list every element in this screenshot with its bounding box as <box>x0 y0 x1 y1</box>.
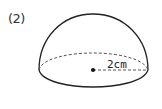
dome-outline <box>39 14 148 70</box>
base-back-arc <box>39 53 148 70</box>
radius-label: 2cm <box>107 58 127 71</box>
base-front-arc <box>39 70 148 87</box>
hemisphere-figure: 2cm <box>0 0 162 109</box>
center-point <box>91 68 95 72</box>
